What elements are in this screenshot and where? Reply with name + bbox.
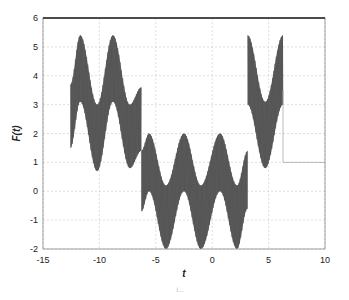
y-tick-label: -1: [30, 215, 38, 225]
y-tick-label: 0: [33, 186, 38, 196]
y-tick-label: 6: [33, 13, 38, 23]
y-tick-label: -2: [30, 244, 38, 254]
y-tick-label: 4: [33, 71, 38, 81]
y-axis-label: F(t): [11, 125, 22, 142]
x-tick-label: -15: [36, 255, 49, 265]
y-tick-label: 1: [33, 157, 38, 167]
data-series: [70, 35, 325, 249]
y-tick-label: 5: [33, 42, 38, 52]
y-tick-label: 3: [33, 100, 38, 110]
x-tick-label: -5: [152, 255, 160, 265]
x-tick-label: 10: [320, 255, 330, 265]
x-tick-label: 5: [266, 255, 271, 265]
y-tick-label: 2: [33, 129, 38, 139]
tail-line: [283, 90, 325, 162]
chart: -15-10-50510 -2-10123456 t F(t) f...: [0, 0, 349, 300]
figure-caption: f...: [176, 286, 184, 294]
y-axis-ticks: -2-10123456: [30, 13, 38, 254]
x-tick-label: 0: [210, 255, 215, 265]
x-axis-label: t: [182, 268, 186, 279]
x-axis-ticks: -15-10-50510: [36, 255, 330, 265]
x-tick-label: -10: [93, 255, 106, 265]
